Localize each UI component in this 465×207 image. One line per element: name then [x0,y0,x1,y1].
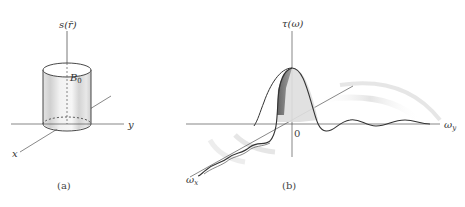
figure-canvas: s(r̄) B0 y x (a) τ(ω) 0 ωy ωx (b) [0,0,465,207]
cylinder-top [43,63,91,77]
ring-arc-1 [320,98,420,122]
wx-axis-label: ωx [186,174,198,187]
panel-a: s(r̄) B0 y x (a) [11,19,134,191]
tau-axis-label: τ(ω) [282,18,304,29]
wy-axis-label: ωy [444,119,457,132]
origin-label: 0 [294,128,300,139]
s-axis-label: s(r̄) [59,19,77,30]
caption-a: (a) [57,180,71,191]
panel-b: τ(ω) 0 ωy ωx (b) [186,18,457,191]
wx-axis [190,86,353,177]
caption-b: (b) [282,180,296,191]
x-axis-label: x [12,148,18,159]
y-axis-label: y [127,119,134,130]
